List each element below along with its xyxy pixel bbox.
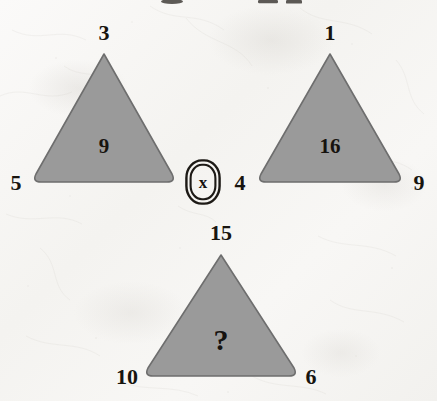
triangle-left-shape <box>30 48 178 186</box>
triangle-bottom-bottom-right-value: 6 <box>299 366 323 388</box>
triangle-bottom-center-value: ? <box>142 325 300 355</box>
triangle-bottom-shape <box>142 249 300 380</box>
triangle-left-apex-value: 3 <box>84 22 124 44</box>
triangle-right: 16 <box>255 48 405 186</box>
triangle-right-bottom-left-value: 4 <box>228 172 252 194</box>
puzzle-canvas: 9 3 5 x 16 1 4 9 ? 15 10 6 <box>0 0 437 401</box>
triangle-bottom: ? <box>142 249 300 380</box>
cropped-header-text <box>0 0 437 10</box>
triangle-right-shape <box>255 48 405 186</box>
triangle-left: 9 <box>30 48 178 186</box>
triangle-left-bottom-left-value: 5 <box>4 172 28 194</box>
operator-symbol: x <box>199 174 208 191</box>
triangle-right-center-value: 16 <box>255 136 405 157</box>
triangle-bottom-bottom-left-value: 10 <box>112 366 142 388</box>
triangle-right-apex-value: 1 <box>310 22 350 44</box>
multiplication-operator-badge: x <box>184 158 222 206</box>
triangle-left-center-value: 9 <box>30 136 178 157</box>
triangle-right-bottom-right-value: 9 <box>407 172 431 194</box>
triangle-bottom-apex-value: 15 <box>199 222 243 244</box>
